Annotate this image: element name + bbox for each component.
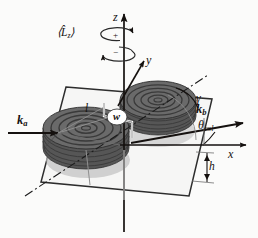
width-label: w: [113, 112, 120, 123]
y-axis-label: y: [146, 54, 151, 66]
rotation-loop-negative: [103, 47, 135, 61]
diagram-canvas: [0, 0, 258, 238]
gamma-label: γ: [196, 92, 201, 104]
kb-vector-label: kb: [196, 103, 206, 117]
theta-col-label: θcol: [198, 119, 213, 133]
angular-momentum-operator-label: ⟨L̂z⟩: [57, 27, 74, 40]
ka-vector-label: ka: [17, 114, 27, 128]
rotation-sign-positive: +: [113, 31, 118, 40]
x-axis-label: x: [228, 148, 233, 160]
length-label: l: [85, 103, 88, 115]
kb-subscript: b: [202, 107, 206, 117]
Lz-close: ⟩: [70, 26, 74, 38]
rotation-sign-negative: −: [113, 48, 118, 57]
theta-subscript: col: [204, 124, 213, 133]
height-label: h: [209, 161, 215, 173]
ka-subscript: a: [23, 118, 27, 128]
Lz-open: ⟨L̂: [57, 26, 67, 38]
z-axis-label: z: [113, 11, 118, 23]
physics-diagram-figure: ⟨L̂z⟩ + − z y x ka kb θcol γ l w h: [0, 0, 258, 238]
